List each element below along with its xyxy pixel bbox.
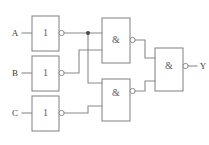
wire-inva-branch-to-nand2-in1: [88, 33, 102, 83]
gate-symbol-nand-2: &: [112, 87, 120, 98]
gate-symbol-inverter-b: 1: [43, 67, 48, 78]
input-label-c: C: [12, 108, 18, 118]
gate-symbol-inverter-c: 1: [43, 107, 48, 118]
junction-dot-inva: [86, 31, 90, 35]
wire-invb-to-nand1-in2: [64, 50, 102, 73]
circuit-schematic: 1 1 1 & & & A B C Y: [0, 0, 209, 145]
wire-invc-to-nand2-in2: [64, 106, 102, 113]
circuit-diagram-canvas: 1 1 1 & & & A B C Y: [0, 0, 209, 145]
gate-symbol-nand-1: &: [112, 34, 120, 45]
wire-nand2-to-nand3-in2: [135, 81, 155, 91]
output-bubble-inverter-b: [59, 70, 64, 75]
gate-symbol-inverter-a: 1: [43, 27, 48, 38]
output-bubble-nand-3: [183, 63, 188, 68]
output-bubble-nand-2: [130, 88, 135, 93]
input-label-b: B: [12, 68, 18, 78]
output-bubble-nand-1: [130, 37, 135, 42]
output-bubble-inverter-a: [59, 30, 64, 35]
gate-nand-2: [102, 79, 130, 121]
wire-nand1-to-nand3-in1: [135, 40, 155, 58]
input-label-a: A: [12, 28, 19, 38]
output-label-y: Y: [200, 61, 207, 71]
output-bubble-inverter-c: [59, 110, 64, 115]
gate-symbol-nand-3: &: [165, 60, 173, 71]
